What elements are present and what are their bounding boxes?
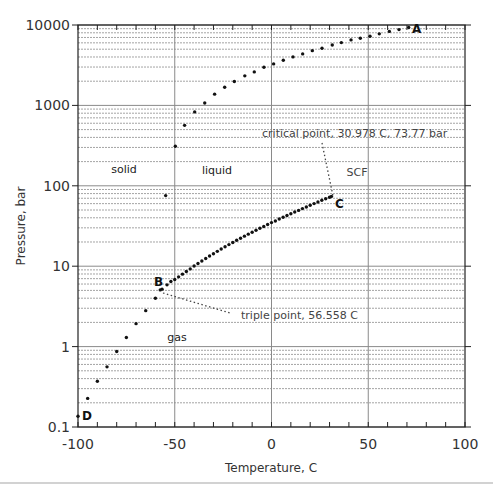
data-point	[177, 275, 180, 278]
data-point	[282, 59, 285, 62]
data-point	[144, 309, 147, 312]
data-point	[309, 204, 312, 207]
data-point	[169, 280, 172, 283]
data-point	[189, 267, 192, 270]
data-point	[397, 28, 400, 31]
point-label-c: C	[335, 197, 344, 211]
x-axis-title: Temperature, C	[224, 461, 317, 475]
data-point	[243, 234, 246, 237]
y-tick-label: 1000	[34, 97, 70, 113]
x-tick-label: 50	[359, 436, 377, 452]
data-point	[349, 38, 352, 41]
critical-point-leader	[322, 143, 333, 196]
data-point	[219, 247, 222, 250]
region-label-scf: SCF	[347, 166, 368, 179]
data-point	[289, 212, 292, 215]
data-point	[285, 214, 288, 217]
data-point	[407, 26, 410, 29]
y-tick-label: 1	[61, 339, 70, 355]
data-point	[204, 257, 207, 260]
data-point	[291, 55, 294, 58]
data-point	[305, 205, 308, 208]
x-tick-label: -50	[163, 436, 186, 452]
data-point	[250, 230, 253, 233]
x-tick-label: 0	[267, 436, 276, 452]
y-axis-title: Pressure, bar	[14, 187, 28, 266]
data-point	[223, 86, 226, 89]
data-point	[208, 254, 211, 257]
data-point	[183, 124, 186, 127]
data-point	[173, 278, 176, 281]
data-point	[213, 92, 216, 95]
data-point	[274, 219, 277, 222]
data-point	[227, 243, 230, 246]
data-point	[212, 252, 215, 255]
data-point	[266, 223, 269, 226]
region-label-solid: solid	[111, 163, 137, 176]
data-point	[216, 250, 219, 253]
data-point	[312, 202, 315, 205]
y-tick-label: 10	[52, 258, 70, 274]
data-point	[185, 270, 188, 273]
data-point	[247, 232, 250, 235]
data-point	[203, 101, 206, 104]
data-point	[181, 272, 184, 275]
data-point	[388, 30, 391, 33]
bottom-separator	[0, 482, 493, 484]
data-point	[270, 221, 273, 224]
data-point	[301, 207, 304, 210]
y-tick-label: 0.1	[48, 419, 70, 435]
data-point	[359, 37, 362, 40]
data-point	[239, 237, 242, 240]
data-point	[154, 296, 157, 299]
data-point	[340, 41, 343, 44]
region-label-liquid: liquid	[202, 164, 232, 177]
point-label-d: D	[82, 409, 92, 423]
data-point	[262, 225, 265, 228]
data-point	[233, 80, 236, 83]
data-point	[196, 262, 199, 265]
data-point	[293, 210, 296, 213]
data-point	[253, 70, 256, 73]
data-point	[324, 197, 327, 200]
point-label-b: B	[154, 275, 163, 289]
data-point	[164, 194, 167, 197]
data-point	[165, 283, 168, 286]
triple-point-leader	[163, 293, 230, 313]
y-tick-label: 100	[43, 178, 70, 194]
data-point	[174, 145, 177, 148]
phase-diagram-chart: 0.1110100100010000-100-50050100 Temperat…	[0, 0, 493, 489]
data-point	[115, 350, 118, 353]
data-point	[231, 241, 234, 244]
data-point	[86, 397, 89, 400]
x-tick-label: -100	[62, 436, 94, 452]
data-point	[320, 199, 323, 202]
point-label-a: A	[412, 22, 422, 36]
data-point	[105, 365, 108, 368]
data-point	[125, 336, 128, 339]
data-point	[368, 35, 371, 38]
data-point	[297, 209, 300, 212]
data-point	[235, 239, 238, 242]
region-label-gas: gas	[167, 331, 187, 344]
data-point	[301, 52, 304, 55]
data-point	[223, 245, 226, 248]
data-point	[193, 110, 196, 113]
data-point	[316, 200, 319, 203]
data-point	[331, 43, 334, 46]
grid-lines	[78, 25, 465, 427]
data-point	[281, 216, 284, 219]
data-point	[254, 229, 257, 232]
x-tick-label: 100	[452, 436, 479, 452]
data-point	[76, 415, 79, 418]
y-tick-label: 10000	[25, 17, 70, 33]
data-point	[200, 259, 203, 262]
data-point	[243, 74, 246, 77]
triple-point-annotation: triple point, 56.558 C	[241, 309, 358, 322]
data-point	[134, 322, 137, 325]
data-point	[192, 264, 195, 267]
data-point	[262, 66, 265, 69]
data-point	[311, 49, 314, 52]
data-point	[96, 380, 99, 383]
data-point	[378, 32, 381, 35]
